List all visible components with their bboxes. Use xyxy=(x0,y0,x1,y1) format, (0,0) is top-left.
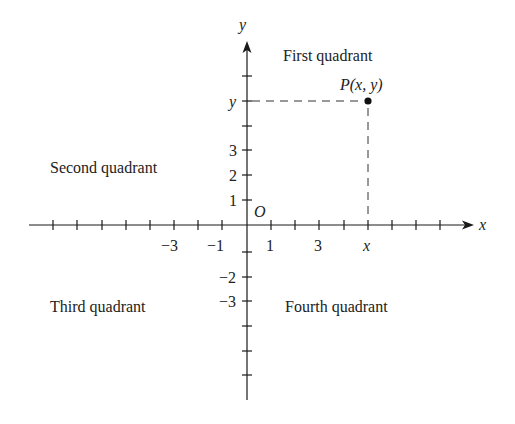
fourth-quadrant-label: Fourth quadrant xyxy=(285,298,388,316)
origin-label: O xyxy=(254,203,266,220)
x-tick-label: x xyxy=(362,237,370,254)
x-axis-label: x xyxy=(478,216,486,233)
x-tick-label: −3 xyxy=(161,237,178,254)
coordinate-plane-diagram: x y O −3 −1 1 3 x 1 2 3 y −2 −3 P(x, y xyxy=(0,0,515,424)
y-tick-label: 2 xyxy=(229,167,237,184)
first-quadrant-label: First quadrant xyxy=(283,47,373,65)
y-tick-label: 1 xyxy=(229,192,237,209)
y-tick-label: −2 xyxy=(219,269,236,286)
y-tick-label: y xyxy=(227,93,237,111)
third-quadrant-label: Third quadrant xyxy=(50,298,146,316)
point-p-label: P(x, y) xyxy=(339,76,383,94)
y-tick-label: 3 xyxy=(229,142,237,159)
point-p-marker-icon xyxy=(364,97,371,104)
y-tick-label: −3 xyxy=(219,293,236,310)
y-axis: y xyxy=(237,16,252,400)
x-tick-label: −1 xyxy=(207,237,224,254)
second-quadrant-label: Second quadrant xyxy=(50,159,158,177)
point-guides xyxy=(252,101,368,220)
y-axis-label: y xyxy=(237,16,247,34)
x-tick-label: 1 xyxy=(266,237,274,254)
x-tick-label: 3 xyxy=(314,237,322,254)
